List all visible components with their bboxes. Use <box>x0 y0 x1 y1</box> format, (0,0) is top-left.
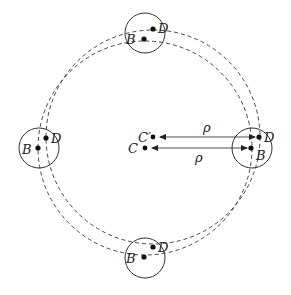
label-rho-upper: ρ <box>202 120 211 135</box>
label-c-prime: C′ <box>138 130 151 145</box>
point-d-right <box>256 134 261 139</box>
point-d-top <box>150 26 155 31</box>
label-d-right: D <box>263 130 275 145</box>
label-b-bottom: B <box>125 251 136 266</box>
label-b-right: B <box>255 148 266 163</box>
label-rho-lower: ρ <box>194 150 203 165</box>
point-b-left <box>35 145 40 150</box>
point-d-bottom <box>150 244 155 249</box>
point-b-top <box>141 36 146 41</box>
point-d-left <box>43 135 48 140</box>
point-c-prime <box>151 135 156 140</box>
point-c <box>143 146 148 151</box>
point-b-right <box>248 145 253 150</box>
label-d-bottom: D <box>157 240 169 255</box>
label-b-left: B <box>21 142 32 157</box>
orbit-diagram: B D B D B D B D C′ C ρ ρ <box>0 0 291 295</box>
label-d-left: D <box>50 131 62 146</box>
point-b-bottom <box>141 254 146 259</box>
label-c: C <box>128 141 138 156</box>
label-d-top: D <box>157 21 169 36</box>
label-b-top: B <box>125 32 136 47</box>
